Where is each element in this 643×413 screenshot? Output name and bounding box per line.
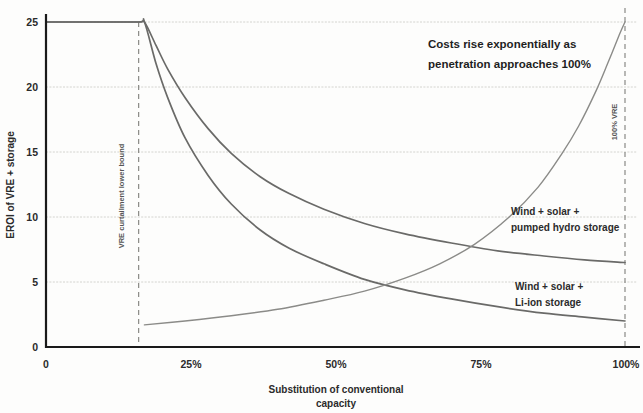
- x-tick-0: 0: [43, 358, 49, 370]
- vre-curtailment-label: VRE curtailment lower bound: [117, 143, 126, 248]
- annotation-cost-note: Costs rise exponentially as penetration …: [428, 38, 591, 70]
- y-tick-0: 0: [32, 341, 38, 353]
- x-tick-labels: 0 25% 50% 75% 100%: [43, 358, 640, 370]
- x-tick-75: 75%: [470, 358, 492, 370]
- chart-container: 25 20 15 10 5 0 0 25% 50% 75% 100% EROI …: [0, 0, 643, 413]
- y-tick-25: 25: [26, 16, 38, 28]
- x-tick-25: 25%: [180, 358, 202, 370]
- x-tick-50: 50%: [325, 358, 347, 370]
- chart-canvas: 25 20 15 10 5 0 0 25% 50% 75% 100% EROI …: [0, 0, 643, 413]
- annotation-vre-curtailment: VRE curtailment lower bound: [117, 143, 126, 248]
- pumped-hydro-label-line1: Wind + solar +: [511, 206, 579, 217]
- full-vre-label: 100% VRE: [610, 104, 619, 141]
- series-label-li-ion: Wind + solar + Li-ion storage: [515, 281, 583, 308]
- y-tick-20: 20: [26, 81, 38, 93]
- annotation-full-vre: 100% VRE: [610, 104, 619, 141]
- series-label-pumped-hydro: Wind + solar + pumped hydro storage: [511, 206, 620, 233]
- li-ion-label-line1: Wind + solar +: [515, 281, 583, 292]
- y-axis-title: EROI of VRE + storage: [5, 131, 16, 239]
- cost-note-line1: Costs rise exponentially as: [428, 38, 576, 50]
- y-tick-10: 10: [26, 211, 38, 223]
- y-tick-15: 15: [26, 146, 38, 158]
- x-axis-title-line2: capacity: [316, 398, 356, 409]
- y-tick-labels: 25 20 15 10 5 0: [26, 16, 38, 353]
- y-tick-5: 5: [32, 276, 38, 288]
- li-ion-label-line2: Li-ion storage: [515, 297, 582, 308]
- x-axis-title-line1: Substitution of conventional: [269, 384, 404, 395]
- x-tick-100: 100%: [613, 358, 641, 370]
- cost-note-line2: penetration approaches 100%: [428, 58, 591, 70]
- pumped-hydro-label-line2: pumped hydro storage: [511, 222, 620, 233]
